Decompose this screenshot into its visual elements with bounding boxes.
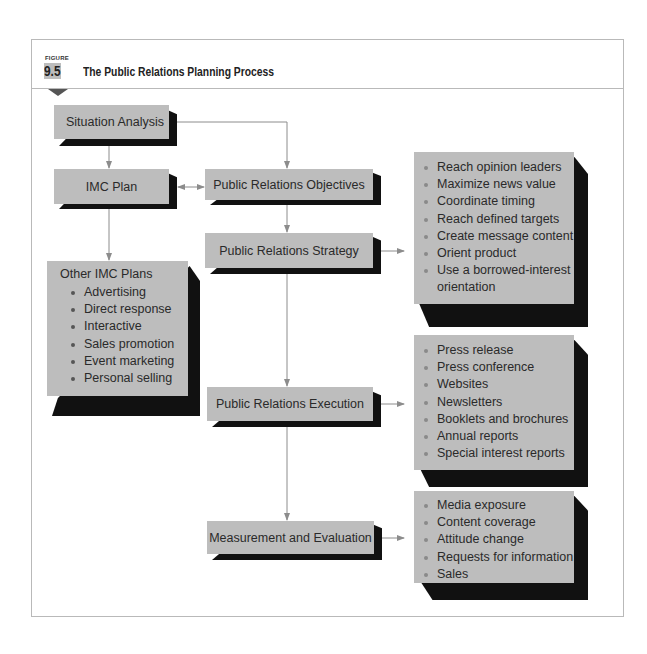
list-item: Sales <box>422 566 573 583</box>
list-item: Reach opinion leaders <box>422 159 573 176</box>
situation-analysis-label: Situation Analysis <box>66 115 164 129</box>
list-item: Attitude change <box>422 531 573 548</box>
measurement-metrics-list: Media exposure Content coverage Attitude… <box>422 497 573 583</box>
list-item: Orient product <box>422 245 573 262</box>
list-item-continuation: orientation <box>422 279 573 296</box>
list-item: Booklets and brochures <box>422 411 568 428</box>
pr-execution-label: Public Relations Execution <box>207 397 373 411</box>
other-imc-list: Advertising Direct response Interactive … <box>69 284 174 387</box>
list-item: Press conference <box>422 359 568 376</box>
other-imc-title: Other IMC Plans <box>60 267 152 281</box>
strategy-tactics-list: Reach opinion leaders Maximize news valu… <box>422 159 573 297</box>
list-item: Direct response <box>69 301 174 318</box>
connector-situation-to-objectives <box>177 122 287 168</box>
list-item: Content coverage <box>422 514 573 531</box>
list-item: Annual reports <box>422 428 568 445</box>
list-item: Newsletters <box>422 394 568 411</box>
list-item: Event marketing <box>69 353 174 370</box>
list-item: Create message content <box>422 228 573 245</box>
list-item: Press release <box>422 342 568 359</box>
pr-objectives-label: Public Relations Objectives <box>205 178 373 192</box>
list-item: Media exposure <box>422 497 573 514</box>
list-item: Maximize news value <box>422 176 573 193</box>
measurement-label: Measurement and Evaluation <box>207 531 374 545</box>
list-item: Personal selling <box>69 370 174 387</box>
imc-plan-label: IMC Plan <box>54 180 169 194</box>
list-item: Websites <box>422 376 568 393</box>
list-item: Reach defined targets <box>422 211 573 228</box>
list-item: Use a borrowed-interest <box>422 262 573 279</box>
execution-tactics-list: Press release Press conference Websites … <box>422 342 568 462</box>
list-item: Sales promotion <box>69 336 174 353</box>
pr-strategy-label: Public Relations Strategy <box>205 244 373 258</box>
list-item: Interactive <box>69 318 174 335</box>
list-item: Advertising <box>69 284 174 301</box>
list-item: Requests for information <box>422 549 573 566</box>
list-item: Coordinate timing <box>422 193 573 210</box>
list-item: Special interest reports <box>422 445 568 462</box>
